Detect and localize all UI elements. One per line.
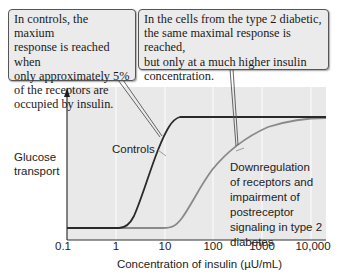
diabetes-label-line: impairment of	[230, 190, 330, 205]
callout-controls: In controls, the maxium response is reac…	[8, 9, 136, 81]
x-tick-label: 0.1	[55, 240, 71, 252]
controls-label: Controls	[112, 143, 155, 155]
figure: In controls, the maxium response is reac…	[0, 0, 339, 280]
diabetes-label-line: Downregulation	[230, 160, 330, 175]
x-tick-label: 10,000	[295, 240, 330, 252]
y-axis-label: Glucose transport	[14, 150, 59, 178]
diabetes-label-line: of receptors and	[230, 175, 330, 190]
diabetes-label: Downregulation of receptors and impairme…	[230, 160, 330, 250]
callout-line: In controls, the maxium	[14, 12, 131, 40]
callout-diabetic: In the cells from the type 2 diabetic, t…	[138, 9, 329, 70]
diabetes-label-line: signaling in type 2	[230, 220, 330, 235]
x-tick-label: 100	[203, 240, 222, 252]
x-tick-label: 1000	[249, 240, 275, 252]
y-axis-label-line: transport	[14, 164, 59, 178]
x-tick-label: 1	[113, 240, 119, 252]
callout-line: In the cells from the type 2 diabetic,	[144, 12, 324, 26]
callout-line: concentration.	[144, 69, 324, 83]
callout-line: only approximately 5%	[14, 69, 131, 83]
callout-line: the same maximal response is reached,	[144, 26, 324, 54]
callout-line: response is reached when	[14, 40, 131, 68]
y-axis-label-line: Glucose	[14, 150, 59, 164]
callout-line: but only at a much higher insulin	[144, 55, 324, 69]
callout-line: occupied by insulin.	[14, 97, 131, 111]
diabetes-label-line: postreceptor	[230, 205, 330, 220]
callout-line: of the receptors are	[14, 83, 131, 97]
x-axis-label: Concentration of insulin (µU/mL)	[0, 258, 339, 270]
x-tick-label: 10	[159, 240, 172, 252]
